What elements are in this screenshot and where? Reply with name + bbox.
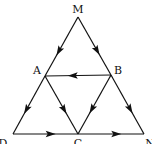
edge-M-B <box>78 17 111 75</box>
edge-A-C <box>45 76 78 134</box>
node-label-M: M <box>72 3 83 16</box>
arrowheads-group <box>21 45 135 137</box>
edge-A-D <box>13 76 45 134</box>
graph-svg: MABDCN <box>0 0 152 144</box>
node-label-N: N <box>145 137 152 144</box>
arrowhead-icon <box>125 103 135 115</box>
edge-B-N <box>111 75 144 134</box>
edge-B-A <box>45 75 111 76</box>
diagram-canvas: MABDCN <box>0 0 152 144</box>
arrowhead-icon <box>21 104 31 116</box>
node-label-D: D <box>0 137 8 144</box>
edge-M-A <box>45 17 78 76</box>
arrowhead-icon <box>59 104 70 116</box>
node-label-C: C <box>74 137 82 144</box>
arrowhead-icon <box>54 45 64 57</box>
arrowhead-icon <box>87 103 97 115</box>
edge-B-C <box>78 75 111 134</box>
arrowhead-icon <box>92 45 103 57</box>
node-label-A: A <box>32 64 42 77</box>
node-label-B: B <box>114 64 122 77</box>
